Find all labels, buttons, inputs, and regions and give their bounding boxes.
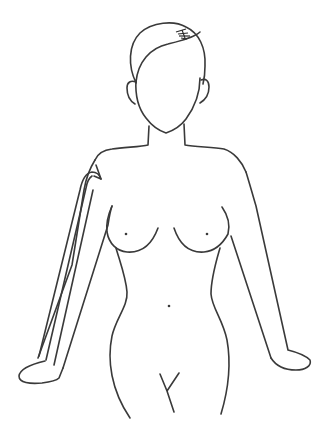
navel-dot [168, 305, 171, 308]
hairline [136, 32, 200, 82]
torso-right [174, 207, 229, 252]
right-ear [200, 79, 209, 103]
right-arm-outer [246, 172, 310, 370]
left-hand [19, 361, 63, 383]
left-ear [127, 81, 136, 104]
body-outline-svg [0, 0, 331, 438]
hair-outline [130, 23, 205, 84]
right-nipple-dot [206, 233, 209, 236]
body-diagram: Front-view female body outline with an a… [0, 0, 331, 438]
neck-left [95, 126, 149, 160]
left-nipple-dot [125, 233, 128, 236]
face-outline [136, 78, 200, 133]
torso-left [107, 206, 158, 252]
waist-right [211, 248, 229, 414]
arrow-line-middle [46, 176, 92, 360]
right-arm-inner [231, 236, 271, 358]
pubic-mark [160, 373, 179, 412]
waist-left [110, 248, 130, 418]
neck-right [184, 124, 246, 172]
